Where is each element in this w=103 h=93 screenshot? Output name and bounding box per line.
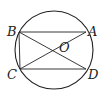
label-c: C — [7, 67, 17, 82]
label-b: B — [6, 24, 17, 39]
label-o: O — [59, 40, 70, 55]
label-d: D — [87, 67, 99, 82]
label-a: A — [87, 24, 97, 39]
segment-bc — [19, 32, 20, 69]
geometry-diagram: B A C D O — [0, 0, 103, 93]
